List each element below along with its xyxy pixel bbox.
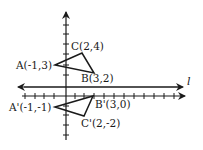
vertex-b-prime-label: B'(3,0) (95, 98, 131, 110)
y-axis (63, 12, 69, 140)
vertex-c-prime-label: C'(2,-2) (81, 117, 120, 129)
coordinate-plane: l A(-1,3) B(3,2) C(2,4) (0, 0, 203, 150)
vertex-b-label: B(3,2) (81, 72, 114, 84)
triangle-abc: A(-1,3) B(3,2) C(2,4) (15, 40, 114, 84)
vertex-c-label: C(2,4) (71, 40, 104, 52)
triangle-a-prime-b-prime-c-prime: A'(-1,-1) B'(3,0) C'(2,-2) (8, 96, 131, 129)
vertex-a-prime-label: A'(-1,-1) (8, 101, 51, 113)
line-l-label: l (187, 75, 191, 88)
vertex-a-label: A(-1,3) (15, 59, 52, 71)
